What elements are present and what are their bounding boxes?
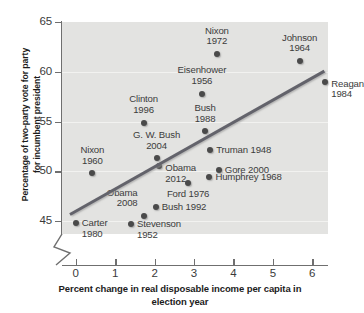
y-tick-mark bbox=[55, 72, 62, 73]
x-tick-mark bbox=[194, 259, 195, 266]
x-tick-label: 2 bbox=[143, 267, 167, 279]
data-point bbox=[199, 91, 205, 97]
y-tick-mark bbox=[55, 221, 62, 222]
data-point bbox=[128, 221, 134, 227]
point-label: G. W. Bush2004 bbox=[133, 130, 180, 151]
y-tick-mark bbox=[55, 122, 62, 123]
point-label-line: 2008 bbox=[107, 198, 138, 209]
point-label-line: Eisenhower bbox=[178, 65, 227, 76]
point-label: Carter1980 bbox=[82, 218, 108, 239]
data-point bbox=[73, 220, 79, 226]
y-axis-break-icon bbox=[50, 234, 72, 266]
point-label-line: Johnson bbox=[282, 33, 317, 44]
x-tick-label: 5 bbox=[261, 267, 285, 279]
point-label: Nixon1972 bbox=[205, 26, 229, 47]
point-label-line: 1964 bbox=[282, 43, 317, 54]
point-label-line: Clinton bbox=[129, 94, 158, 105]
point-label: Nixon1960 bbox=[80, 145, 104, 166]
point-label: Clinton1996 bbox=[129, 94, 158, 115]
point-label-line: 1952 bbox=[137, 230, 181, 241]
point-label: Eisenhower1956 bbox=[178, 65, 227, 86]
data-point bbox=[214, 51, 220, 57]
x-tick-mark bbox=[233, 259, 234, 266]
point-label-line: 1972 bbox=[205, 36, 229, 47]
point-label-line: 1988 bbox=[194, 114, 215, 125]
point-label-line: Bush 1992 bbox=[162, 202, 207, 213]
y-axis-line bbox=[61, 21, 62, 235]
x-axis-title: Percent change in real disposable income… bbox=[46, 283, 314, 308]
point-label-line: 1960 bbox=[80, 156, 104, 167]
point-label-line: Nixon bbox=[80, 145, 104, 156]
point-label: Humphrey 1968 bbox=[215, 172, 281, 183]
x-tick-mark bbox=[273, 259, 274, 266]
point-label: Truman 1948 bbox=[216, 145, 271, 156]
y-tick-mark bbox=[55, 171, 62, 172]
x-tick-label: 6 bbox=[300, 267, 324, 279]
data-point bbox=[154, 155, 160, 161]
point-label: Ford 1976 bbox=[167, 189, 209, 200]
x-tick-mark bbox=[312, 259, 313, 266]
point-label: Stevenson1952 bbox=[137, 219, 181, 240]
y-axis-title-line-1: Percentage of two-party vote for party bbox=[20, 18, 32, 232]
point-label-line: 1984 bbox=[331, 89, 364, 100]
x-tick-mark bbox=[155, 259, 156, 266]
point-label-line: 1996 bbox=[129, 105, 158, 116]
point-label-line: Bush bbox=[194, 103, 215, 114]
point-label-line: 1956 bbox=[178, 76, 227, 87]
point-label-line: G. W. Bush bbox=[133, 130, 180, 141]
data-point bbox=[153, 204, 159, 210]
x-tick-label: 4 bbox=[221, 267, 245, 279]
point-label-line: Nixon bbox=[205, 26, 229, 37]
point-label: Bush1988 bbox=[194, 103, 215, 124]
point-label: Bush 1992 bbox=[162, 202, 207, 213]
point-label-line: 1980 bbox=[82, 229, 108, 240]
point-label-line: Truman 1948 bbox=[216, 145, 271, 156]
point-label-line: Humphrey 1968 bbox=[215, 172, 281, 183]
x-tick-mark bbox=[76, 259, 77, 266]
point-label-line: Ford 1976 bbox=[167, 189, 209, 200]
x-tick-label: 1 bbox=[103, 267, 127, 279]
point-label-line: 2004 bbox=[133, 141, 180, 152]
x-tick-label: 3 bbox=[182, 267, 206, 279]
point-label-line: 2012 bbox=[165, 174, 196, 185]
x-tick-mark bbox=[115, 259, 116, 266]
point-label: Obama2012 bbox=[165, 163, 196, 184]
point-label: Johnson1964 bbox=[282, 33, 317, 54]
y-axis-title: Percentage of two-party vote for party f… bbox=[20, 18, 43, 232]
y-axis-title-line-2: for incumbent president bbox=[31, 18, 43, 232]
x-axis-title-line-1: Percent change in real disposable income bbox=[59, 283, 245, 294]
x-tick-label: 0 bbox=[64, 267, 88, 279]
y-tick-mark bbox=[55, 22, 62, 23]
data-point bbox=[141, 120, 147, 126]
data-point bbox=[322, 79, 328, 85]
data-point bbox=[297, 58, 303, 64]
point-label: Reagan1984 bbox=[331, 79, 364, 100]
